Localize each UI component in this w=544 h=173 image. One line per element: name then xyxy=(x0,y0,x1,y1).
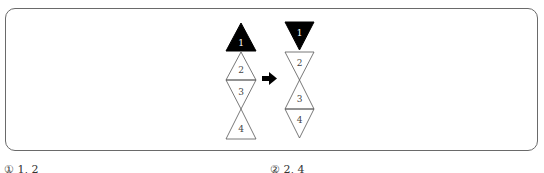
left-label-1: 1 xyxy=(238,38,244,48)
right-label-1: 1 xyxy=(297,28,303,38)
left-label-3: 3 xyxy=(238,87,244,97)
option-1[interactable]: ① 1, 2 xyxy=(4,163,39,173)
right-label-3: 3 xyxy=(297,94,303,104)
option-2[interactable]: ② 2, 4 xyxy=(270,163,305,173)
right-triangle-stack: 1 2 3 4 xyxy=(285,22,314,138)
right-label-2: 2 xyxy=(297,58,303,68)
right-label-4: 4 xyxy=(297,115,303,125)
left-label-2: 2 xyxy=(238,65,244,75)
left-label-4: 4 xyxy=(238,124,244,134)
triangle-diagram: 1 2 3 4 1 2 3 4 xyxy=(0,0,544,173)
right-arrow-icon xyxy=(262,72,277,85)
left-triangle-stack: 1 2 3 4 xyxy=(226,23,256,139)
